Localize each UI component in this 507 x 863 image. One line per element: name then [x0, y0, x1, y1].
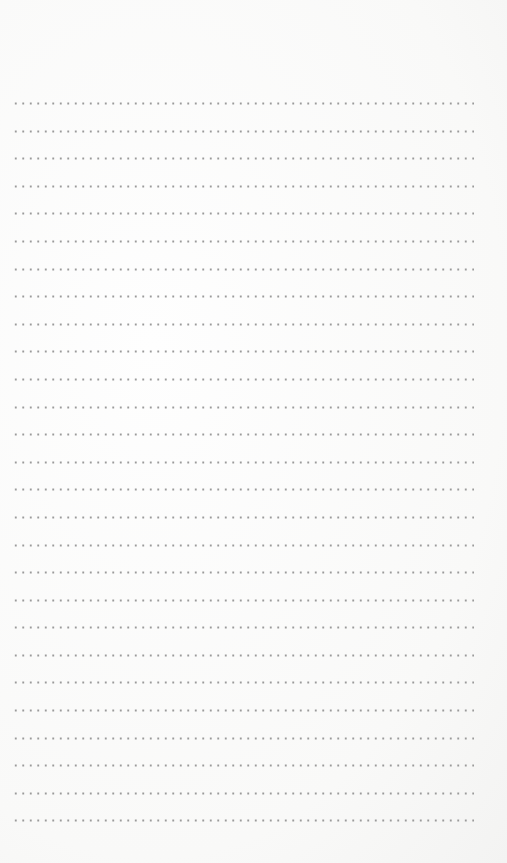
- dotted-line: [12, 185, 474, 188]
- dotted-line: [12, 157, 474, 160]
- dotted-line: [12, 323, 474, 326]
- dotted-line: [12, 544, 474, 547]
- dotted-line: [12, 737, 474, 740]
- dotted-line: [12, 516, 474, 519]
- dotted-line: [12, 240, 474, 243]
- dotted-line: [12, 488, 474, 491]
- dotted-line: [12, 378, 474, 381]
- dotted-line: [12, 461, 474, 464]
- dotted-line: [12, 819, 474, 822]
- dotted-line: [12, 654, 474, 657]
- dotted-line: [12, 599, 474, 602]
- dotted-line: [12, 102, 474, 105]
- dotted-line: [12, 709, 474, 712]
- dotted-line: [12, 350, 474, 353]
- dotted-line: [12, 764, 474, 767]
- dotted-line: [12, 212, 474, 215]
- dotted-line: [12, 130, 474, 133]
- dotted-line: [12, 681, 474, 684]
- dotted-line: [12, 268, 474, 271]
- dotted-line: [12, 571, 474, 574]
- dotted-line: [12, 406, 474, 409]
- dotted-line: [12, 792, 474, 795]
- dotted-line: [12, 295, 474, 298]
- dotted-paper-page: [0, 0, 507, 863]
- dotted-lines-container: [12, 102, 474, 847]
- dotted-line: [12, 433, 474, 436]
- dotted-line: [12, 626, 474, 629]
